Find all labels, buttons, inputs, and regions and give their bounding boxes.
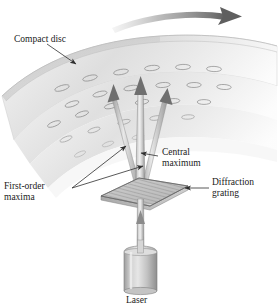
label-first-order-line1: First-order [4, 181, 45, 191]
label-first-order-line2: maxima [4, 192, 35, 202]
label-diffraction-grating-line2: grating [212, 188, 239, 198]
label-central-maximum-line2: maximum [162, 158, 201, 168]
incident-laser-beam [136, 199, 145, 246]
label-laser: Laser [126, 295, 148, 305]
laser-device [124, 240, 157, 295]
label-central-maximum-line1: Central [162, 147, 190, 157]
label-diffraction-grating-line1: Diffraction [212, 177, 254, 187]
diffraction-grating-figure: Compact disc Central maximum First-order… [0, 0, 278, 307]
rotation-arrow-icon [112, 7, 242, 33]
figure-canvas: Compact disc Central maximum First-order… [0, 0, 278, 307]
label-compact-disc: Compact disc [14, 34, 66, 44]
